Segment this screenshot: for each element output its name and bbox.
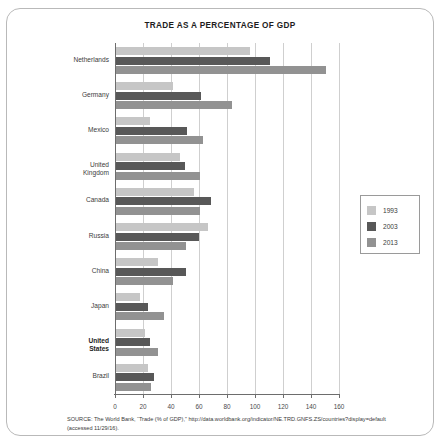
bar — [116, 82, 173, 90]
legend-swatch — [367, 238, 376, 247]
category-label: Canada — [25, 196, 109, 204]
bar — [116, 172, 200, 180]
x-tick-label: 20 — [139, 403, 146, 410]
x-tick-mark — [255, 395, 256, 398]
bar — [116, 101, 232, 109]
x-tick-label: 140 — [306, 403, 317, 410]
bar — [116, 223, 208, 231]
bar — [116, 117, 150, 125]
category-label: Russia — [25, 232, 109, 240]
country-group: Japan — [115, 289, 339, 324]
legend-swatch — [367, 206, 376, 215]
x-tick-label: 60 — [195, 403, 202, 410]
bar — [116, 348, 158, 356]
x-tick-label: 100 — [250, 403, 261, 410]
bar — [116, 153, 180, 161]
legend-item: 2013 — [367, 234, 419, 250]
bar — [116, 258, 158, 266]
x-tick-label: 160 — [334, 403, 345, 410]
category-label: Japan — [25, 302, 109, 310]
bar — [116, 293, 140, 301]
chart-title: TRADE AS A PERCENTAGE OF GDP — [7, 21, 433, 30]
x-tick-label: 80 — [223, 403, 230, 410]
bar — [116, 66, 326, 74]
category-label: Mexico — [25, 126, 109, 134]
category-label: Brazil — [25, 372, 109, 380]
x-tick-mark — [227, 395, 228, 398]
figure-card: TRADE AS A PERCENTAGE OF GDP Netherlands… — [6, 8, 434, 436]
country-group: Canada — [115, 184, 339, 219]
bar — [116, 207, 200, 215]
x-tick-mark — [115, 395, 116, 398]
bar — [116, 92, 201, 100]
category-label: Germany — [25, 91, 109, 99]
category-label: China — [25, 267, 109, 275]
x-tick-mark — [339, 395, 340, 398]
bar — [116, 162, 185, 170]
legend-label: 2013 — [383, 239, 398, 246]
bar — [116, 242, 186, 250]
country-group: Mexico — [115, 113, 339, 148]
bar — [116, 57, 270, 65]
bar — [116, 303, 148, 311]
gridline — [339, 43, 340, 395]
chart-legend: 199320032013 — [360, 195, 420, 254]
x-tick-mark — [199, 395, 200, 398]
bar — [116, 127, 187, 135]
bar — [116, 233, 199, 241]
bar — [116, 338, 150, 346]
category-label: Netherlands — [25, 56, 109, 64]
bar — [116, 277, 173, 285]
category-label: United Kingdom — [25, 161, 109, 177]
x-tick-label: 120 — [278, 403, 289, 410]
bar — [116, 136, 203, 144]
country-group: China — [115, 254, 339, 289]
x-tick-mark — [171, 395, 172, 398]
source-note: SOURCE: The World Bank, “Trade (% of GDP… — [67, 415, 397, 432]
country-group: Netherlands — [115, 43, 339, 78]
category-label: United States — [25, 337, 109, 353]
bar — [116, 268, 186, 276]
legend-label: 1993 — [383, 207, 398, 214]
legend-item: 1993 — [367, 202, 419, 218]
plot-area: NetherlandsGermanyMexicoUnited KingdomCa… — [115, 43, 339, 395]
x-tick-label: 40 — [167, 403, 174, 410]
bar — [116, 373, 154, 381]
bar — [116, 329, 145, 337]
country-group: Germany — [115, 78, 339, 113]
bar — [116, 364, 148, 372]
bar — [116, 188, 194, 196]
x-tick-mark — [143, 395, 144, 398]
bar — [116, 383, 151, 391]
country-group: United Kingdom — [115, 149, 339, 184]
country-group: United States — [115, 325, 339, 360]
bar — [116, 312, 164, 320]
country-group: Russia — [115, 219, 339, 254]
bar — [116, 197, 211, 205]
x-tick-mark — [311, 395, 312, 398]
country-group: Brazil — [115, 360, 339, 395]
x-tick-label: 0 — [113, 403, 117, 410]
bar — [116, 47, 250, 55]
x-tick-mark — [283, 395, 284, 398]
legend-label: 2003 — [383, 223, 398, 230]
legend-item: 2003 — [367, 218, 419, 234]
legend-swatch — [367, 222, 376, 231]
